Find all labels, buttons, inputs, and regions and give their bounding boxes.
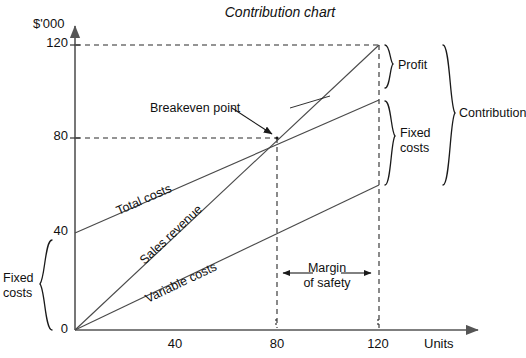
fixed-costs-right-label-line1: Fixed [400, 126, 431, 140]
fixed-costs-brace-left [40, 240, 52, 330]
braces-left [40, 240, 52, 330]
profit-brace [385, 45, 393, 88]
fixed-costs-left-label-line2: costs [3, 286, 32, 300]
x-axis-label: Units [424, 337, 454, 352]
fixed-costs-brace-right [385, 101, 395, 185]
breakeven-point-label: Breakeven point [150, 101, 240, 115]
x-tick-label-40: 40 [160, 337, 190, 352]
y-tick-label-0: 0 [54, 322, 68, 337]
chart-title: Contribution chart [205, 4, 355, 20]
fixed-costs-left-label-line1: Fixed [3, 271, 34, 285]
contribution-label: Contribution [459, 106, 526, 120]
y-axis-unit-label: $'000 [33, 17, 64, 32]
breakeven-callout [232, 96, 330, 140]
margin-of-safety-label-line1: Margin [297, 261, 357, 275]
y-tick-label-40: 40 [40, 224, 68, 239]
fixed-costs-right-label-line2: costs [400, 141, 429, 155]
margin-of-safety-label-line2: of safety [292, 276, 362, 290]
breakeven-point-marker [275, 136, 278, 139]
y-tick-label-120: 120 [40, 36, 68, 51]
profit-label: Profit [398, 58, 427, 72]
contribution-brace [443, 45, 455, 185]
x-tick-label-80: 80 [262, 337, 292, 352]
x-tick-label-120: 120 [363, 337, 393, 352]
y-tick-label-80: 80 [40, 129, 68, 144]
breakeven-leader-2 [290, 96, 330, 108]
